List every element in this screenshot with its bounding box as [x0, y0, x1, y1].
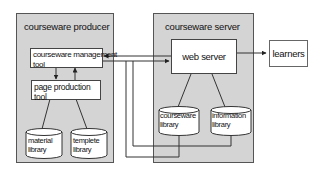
information-library-line-2: library	[212, 120, 246, 129]
management-tool-label-1: courseware management	[33, 50, 100, 60]
template-library-label: templete library	[73, 136, 99, 154]
learners-box: learners	[269, 40, 308, 67]
web-server-box: web server	[171, 39, 237, 74]
web-server-label: web server	[182, 52, 225, 62]
management-tool-label-2: tool	[33, 60, 100, 70]
page-production-tool-box: page production tool	[31, 80, 101, 100]
page-tool-label-1: page production	[34, 82, 98, 92]
courseware-library-line-1: courseware	[160, 111, 196, 120]
courseware-management-tool-box: courseware management tool	[30, 48, 103, 68]
courseware-library-cylinder: courseware library	[158, 106, 200, 137]
information-library-cylinder: information library	[210, 106, 252, 137]
material-library-label: material library	[28, 136, 52, 154]
information-library-label: information library	[212, 111, 246, 129]
courseware-library-label: courseware library	[160, 111, 196, 129]
template-library-line-1: templete	[73, 136, 99, 145]
learners-label: learners	[273, 49, 305, 59]
page-tool-label-2: tool	[34, 92, 98, 102]
template-library-cylinder: templete library	[70, 128, 108, 160]
material-library-cylinder: material library	[25, 128, 63, 160]
template-library-line-2: library	[73, 145, 99, 154]
material-library-line-1: material	[28, 136, 52, 145]
information-library-line-1: information	[212, 111, 246, 120]
material-library-line-2: library	[28, 145, 52, 154]
courseware-library-line-2: library	[160, 120, 196, 129]
